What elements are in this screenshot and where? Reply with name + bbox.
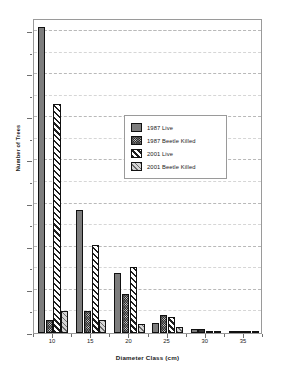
bar (130, 267, 137, 333)
gridline (34, 30, 261, 31)
x-axis-tick-mark (243, 334, 244, 338)
y-axis-tick-mark (27, 161, 32, 162)
legend-swatch (131, 123, 142, 132)
x-axis-tick-mark (128, 334, 129, 338)
x-axis-minor-tick-mark (186, 334, 187, 337)
legend-swatch (131, 162, 142, 171)
gridline (34, 52, 261, 53)
bar (122, 294, 129, 333)
y-axis-minor-tick-mark (30, 226, 33, 227)
gridline (34, 246, 261, 247)
bar (46, 320, 53, 333)
chart-figure: Number of Trees Diameter Class (cm) 0100… (0, 0, 281, 375)
y-axis-tick-mark (27, 248, 32, 249)
y-axis-minor-tick-mark (30, 269, 33, 270)
x-axis-tick-label: 25 (152, 338, 182, 344)
bar (236, 331, 243, 333)
gridline (34, 267, 261, 268)
bar (160, 315, 167, 333)
legend-swatch (131, 149, 142, 158)
legend-item: 2001 Beetle Killed (131, 160, 221, 173)
bar (198, 329, 205, 333)
bar (84, 311, 91, 333)
y-axis-tick-mark (27, 75, 32, 76)
x-axis-title: Diameter Class (cm) (33, 354, 262, 361)
bar (92, 245, 99, 333)
x-axis-tick-label: 20 (113, 338, 143, 344)
y-axis-title: Number of Trees (15, 88, 21, 208)
y-axis-minor-tick-mark (30, 140, 33, 141)
y-axis-tick-mark (27, 291, 32, 292)
gridline (34, 224, 261, 225)
legend-label: 1987 Beetle Killed (147, 138, 196, 144)
bar (38, 27, 45, 333)
legend-label: 1987 Live (147, 125, 173, 131)
bar (206, 331, 213, 333)
x-axis-minor-tick-mark (109, 334, 110, 337)
x-axis-minor-tick-mark (262, 334, 263, 337)
y-axis-tick-mark (27, 205, 32, 206)
gridline (34, 289, 261, 290)
bar (53, 104, 60, 333)
x-axis-tick-label: 30 (190, 338, 220, 344)
bar (114, 273, 121, 333)
x-axis-tick-label: 10 (37, 338, 67, 344)
bar (176, 327, 183, 333)
x-axis-minor-tick-mark (71, 334, 72, 337)
x-axis-tick-label: 15 (75, 338, 105, 344)
legend-label: 2001 Live (147, 151, 173, 157)
bar (61, 311, 68, 333)
x-axis-tick-mark (90, 334, 91, 338)
x-axis-minor-tick-mark (224, 334, 225, 337)
y-axis-minor-tick-mark (30, 312, 33, 313)
bar (244, 331, 251, 333)
y-axis-minor-tick-mark (30, 97, 33, 98)
bar (76, 210, 83, 333)
x-axis-tick-mark (167, 334, 168, 338)
y-axis-tick-mark (27, 32, 32, 33)
x-axis-minor-tick-mark (148, 334, 149, 337)
bar (252, 331, 259, 333)
x-axis-tick-mark (205, 334, 206, 338)
x-axis-minor-tick-mark (33, 334, 34, 337)
bar (99, 320, 106, 333)
gridline (34, 181, 261, 182)
gridline (34, 203, 261, 204)
legend-item: 1987 Beetle Killed (131, 134, 221, 147)
legend-item: 2001 Live (131, 147, 221, 160)
x-axis-tick-mark (52, 334, 53, 338)
y-axis-tick-mark (27, 118, 32, 119)
bar (168, 317, 175, 333)
legend-label: 2001 Beetle Killed (147, 164, 196, 170)
gridline (34, 73, 261, 74)
bar (229, 331, 236, 333)
x-axis-tick-label: 35 (228, 338, 258, 344)
bar (138, 324, 145, 333)
legend-swatch (131, 136, 142, 145)
legend-item: 1987 Live (131, 121, 221, 134)
bar (214, 331, 221, 333)
bar (152, 323, 159, 333)
chart-legend: 1987 Live1987 Beetle Killed2001 Live2001… (124, 115, 227, 179)
gridline (34, 95, 261, 96)
bar (191, 329, 198, 333)
y-axis-tick-mark (27, 334, 32, 335)
y-axis-minor-tick-mark (30, 54, 33, 55)
y-axis-minor-tick-mark (30, 183, 33, 184)
